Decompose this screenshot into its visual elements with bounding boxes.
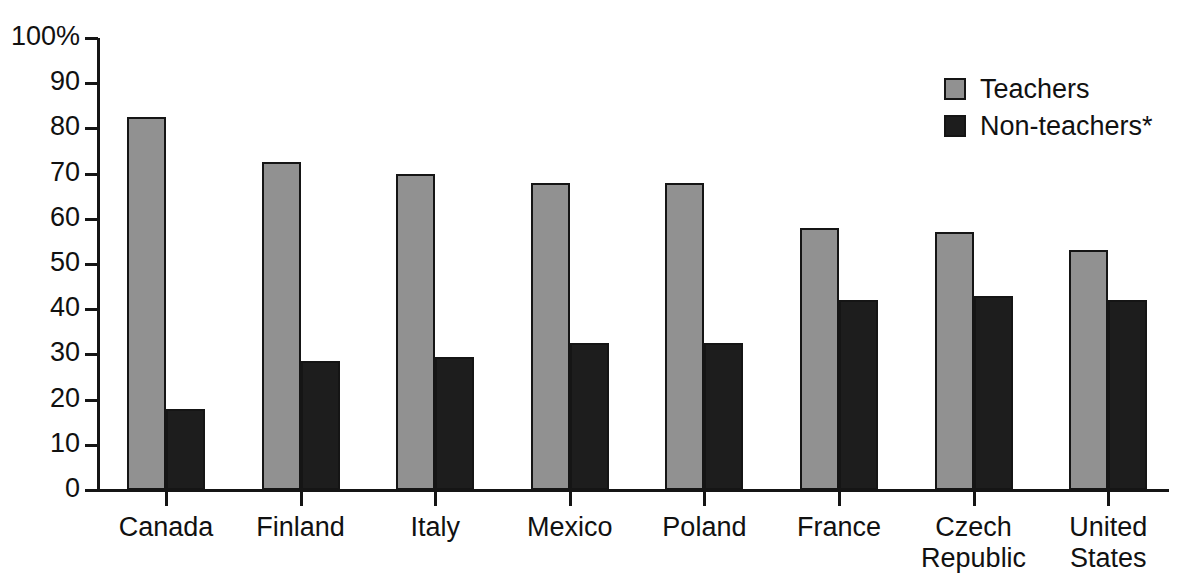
x-tick [973,491,976,506]
legend-label-nonteachers: Non-teachers* [980,113,1153,140]
bar [1108,300,1147,490]
y-tick-60 [85,218,98,221]
y-tick-label: 50 [50,249,80,276]
y-tick-label: 100% [11,23,80,50]
y-tick-label: 20 [50,385,80,412]
chart-legend: Teachers Non-teachers* [944,72,1153,146]
y-tick-label-wrap: 30 [0,339,80,367]
y-tick-label-wrap: 0 [0,475,80,503]
y-tick-90 [85,82,98,85]
y-tick-30 [85,353,98,356]
y-tick-label: 30 [50,339,80,366]
y-tick-label-wrap: 50 [0,249,80,277]
bar [1069,250,1108,490]
x-tick [569,491,572,506]
bar [435,357,474,490]
bar [166,409,205,490]
bar [531,183,570,490]
y-tick-100 [85,37,98,40]
legend-item-nonteachers: Non-teachers* [944,109,1153,143]
bar [665,183,704,490]
bar [704,343,743,490]
y-tick-label-wrap: 70 [0,159,80,187]
legend-item-teachers: Teachers [944,72,1153,106]
x-tick [165,491,168,506]
bar [262,162,301,490]
x-tick-label: Italy [410,512,460,543]
nonteachers-swatch-icon [944,115,966,137]
bar [839,300,878,490]
x-tick [1107,491,1110,506]
bar-chart: 0102030405060708090100% CanadaFinlandIta… [0,0,1193,585]
bar [396,174,435,490]
y-tick-label: 60 [50,204,80,231]
y-tick-label-wrap: 90 [0,68,80,96]
y-tick-40 [85,308,98,311]
y-tick-label: 0 [65,475,80,502]
bar [127,117,166,490]
bar [570,343,609,490]
x-tick-label: Poland [662,512,746,543]
y-tick-10 [85,444,98,447]
legend-label-teachers: Teachers [980,76,1090,103]
x-tick-label: Finland [256,512,345,543]
x-tick-label: United States [1069,512,1147,574]
x-tick [434,491,437,506]
bar [301,361,340,490]
bar [974,296,1013,490]
y-tick-label: 80 [50,113,80,140]
teachers-swatch-icon [944,78,966,100]
x-tick-label: Canada [119,512,214,543]
y-tick-80 [85,127,98,130]
y-tick-label-wrap: 100% [0,23,80,51]
bar [800,228,839,490]
x-tick-label: Czech Republic [921,512,1026,574]
x-tick-label: Mexico [527,512,613,543]
x-tick [300,491,303,506]
y-tick-70 [85,173,98,176]
y-tick-label: 10 [50,430,80,457]
y-tick-label: 70 [50,159,80,186]
x-tick [703,491,706,506]
y-tick-label: 40 [50,294,80,321]
bar [935,232,974,490]
y-tick-label-wrap: 60 [0,204,80,232]
x-tick-label: France [797,512,881,543]
x-tick [838,491,841,506]
y-tick-label-wrap: 40 [0,294,80,322]
y-tick-label-wrap: 10 [0,430,80,458]
y-tick-label: 90 [50,68,80,95]
y-tick-label-wrap: 80 [0,113,80,141]
y-tick-label-wrap: 20 [0,385,80,413]
y-tick-20 [85,399,98,402]
y-tick-50 [85,263,98,266]
